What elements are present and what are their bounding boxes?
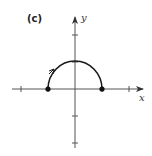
start-point [45,86,50,91]
panel-label: (c) [27,13,42,24]
y-axis-label: y [80,12,87,23]
parametric-graph: (c) y x [0,0,152,156]
x-axis-label: x [139,92,145,103]
orientation-arrow-icon [49,69,54,74]
end-point [99,86,104,91]
